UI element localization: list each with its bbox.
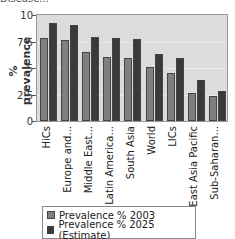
legend-swatch-2025	[47, 226, 54, 234]
legend-label: Prevalence % 2025 (Estimate)	[58, 219, 195, 239]
bar-2025	[70, 25, 78, 121]
bar-2003	[124, 58, 132, 121]
legend-item-2025: Prevalence % 2025 (Estimate)	[43, 223, 195, 237]
x-tick-label: Europe and...	[62, 126, 73, 193]
bar-2003	[167, 73, 175, 121]
x-tick-label: Latin America...	[104, 126, 115, 205]
legend-swatch-2003	[47, 211, 55, 219]
bar-2003	[209, 96, 217, 121]
bar-2003	[188, 93, 196, 121]
x-tick-label: South Asia	[125, 126, 136, 179]
bar-2025	[218, 91, 226, 121]
bar-2003	[103, 57, 111, 121]
bar-2025	[91, 37, 99, 121]
x-tick-label: HiCs	[41, 126, 52, 149]
bar-2025	[133, 39, 141, 121]
x-tick-label: Sub-Saharan...	[209, 126, 220, 200]
bar-2025	[197, 80, 205, 121]
bar-2003	[82, 52, 90, 121]
cut-off-title: Disease...	[0, 0, 49, 4]
bar-2025	[176, 58, 184, 121]
bar-2003	[40, 38, 48, 121]
legend: Prevalence % 2003 Prevalence % 2025 (Est…	[42, 206, 196, 239]
bar-2025	[155, 54, 163, 121]
x-tick-label: LICs	[167, 126, 178, 147]
y-tick-label: 7.5	[17, 36, 33, 47]
bar-2025	[49, 23, 57, 121]
y-tick-label: 2.5	[17, 89, 33, 100]
x-tick-label: World	[146, 126, 157, 155]
plot-area	[36, 14, 228, 122]
x-tick-label: East Asia Pacific	[188, 126, 199, 207]
x-tick-label: Middle East...	[83, 126, 94, 193]
bar-2025	[112, 38, 120, 121]
bar-2003	[146, 67, 154, 121]
bar-2003	[61, 40, 69, 121]
